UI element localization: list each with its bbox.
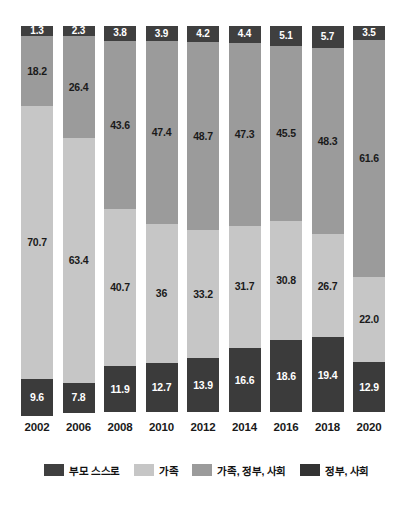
bar-segment-value-label: 48.3 — [318, 136, 338, 147]
x-axis-tick-label: 2012 — [187, 421, 219, 433]
bar-segment-value-label: 3.8 — [113, 28, 126, 38]
bar-segment-value-label: 18.2 — [27, 66, 47, 77]
x-axis-tick-label: 2008 — [104, 421, 136, 433]
bar-segment-value-label: 19.4 — [318, 370, 338, 381]
bar-group[interactable]: 4.248.733.213.9 — [187, 26, 219, 412]
bar-segment[interactable]: 30.8 — [270, 221, 302, 340]
x-axis-tick-label: 2002 — [21, 421, 53, 433]
bar-segment[interactable]: 61.6 — [353, 40, 385, 278]
bar-segment[interactable]: 12.9 — [353, 362, 385, 412]
bar-segment[interactable]: 36 — [146, 224, 178, 363]
bar-segment[interactable]: 19.4 — [312, 337, 344, 412]
bar-segment[interactable]: 7.8 — [63, 383, 95, 413]
legend-item-label: 가족 — [159, 463, 178, 478]
bar-segment[interactable]: 63.4 — [63, 138, 95, 383]
bar-segment[interactable]: 47.4 — [146, 41, 178, 224]
bar-segment-value-label: 36 — [156, 288, 167, 299]
bar-segment[interactable]: 2.3 — [63, 26, 95, 36]
bar-segment[interactable]: 5.1 — [270, 26, 302, 46]
bar-segment-value-label: 1.3 — [30, 26, 43, 36]
bar-segment[interactable]: 3.8 — [104, 26, 136, 41]
stacked-bar-chart: 1.318.270.79.62.326.463.47.83.843.640.71… — [0, 0, 413, 509]
x-axis-tick-label: 2010 — [146, 421, 178, 433]
x-axis: 200220062008201020122014201620182020 — [0, 412, 413, 444]
bar-segment-value-label: 40.7 — [110, 282, 130, 293]
bar-segment-value-label: 43.6 — [110, 120, 130, 131]
bar-group[interactable]: 5.748.326.719.4 — [312, 26, 344, 412]
bar-segment-value-label: 4.2 — [196, 29, 209, 39]
bar-segment[interactable]: 4.2 — [187, 26, 219, 42]
legend-color-swatch-icon — [192, 464, 212, 476]
x-axis-tick-label: 2016 — [270, 421, 302, 433]
bar-segment-value-label: 45.5 — [276, 128, 296, 139]
bar-segment[interactable]: 26.7 — [312, 234, 344, 337]
bar-segment-value-label: 16.6 — [235, 375, 255, 386]
bar-segment-value-label: 70.7 — [27, 237, 47, 248]
bar-segment[interactable]: 12.7 — [146, 363, 178, 412]
bar-segment-value-label: 48.7 — [193, 131, 213, 142]
bar-segment[interactable]: 11.9 — [104, 366, 136, 412]
bar-group[interactable]: 3.843.640.711.9 — [104, 26, 136, 412]
bar-segment[interactable]: 48.7 — [187, 42, 219, 230]
bar-segment[interactable]: 26.4 — [63, 36, 95, 138]
bar-segment[interactable]: 1.3 — [21, 26, 53, 36]
bar-group[interactable]: 3.561.622.012.9 — [353, 26, 385, 412]
bar-segment-value-label: 11.9 — [110, 384, 129, 395]
bar-segment[interactable]: 45.5 — [270, 46, 302, 222]
legend-item[interactable]: 가족 — [134, 463, 178, 478]
bar-group[interactable]: 2.326.463.47.8 — [63, 26, 95, 412]
x-axis-tick-label: 2014 — [229, 421, 261, 433]
legend-item[interactable]: 가족, 정부, 사회 — [192, 463, 286, 478]
bar-segment-value-label: 33.2 — [193, 289, 213, 300]
x-axis-tick-label: 2020 — [353, 421, 385, 433]
bar-segment-value-label: 26.7 — [318, 281, 338, 292]
x-axis-tick-label: 2006 — [63, 421, 95, 433]
bar-segment-value-label: 12.7 — [152, 382, 172, 393]
legend-color-swatch-icon — [44, 464, 64, 476]
bar-segment[interactable]: 5.7 — [312, 26, 344, 48]
legend-color-swatch-icon — [300, 464, 320, 476]
bar-segment-value-label: 30.8 — [276, 275, 296, 286]
bar-segment-value-label: 5.1 — [279, 31, 292, 41]
bar-segment[interactable]: 3.5 — [353, 26, 385, 40]
bar-segment-value-label: 12.9 — [359, 382, 379, 393]
bar-segment[interactable]: 31.7 — [229, 226, 261, 348]
bar-segment-value-label: 47.3 — [235, 129, 255, 140]
bar-segment[interactable]: 16.6 — [229, 348, 261, 412]
bar-segment-value-label: 3.9 — [155, 29, 168, 39]
bar-group[interactable]: 1.318.270.79.6 — [21, 26, 53, 412]
bar-segment[interactable]: 3.9 — [146, 26, 178, 41]
bar-segment-value-label: 7.8 — [72, 392, 86, 403]
chart-legend: 부모 스스로가족가족, 정부, 사회정부, 사회 — [0, 455, 413, 485]
plot-area: 1.318.270.79.62.326.463.47.83.843.640.71… — [0, 0, 413, 412]
x-axis-tick-label: 2018 — [312, 421, 344, 433]
bar-group[interactable]: 5.145.530.818.6 — [270, 26, 302, 412]
bar-segment-value-label: 4.4 — [238, 29, 251, 39]
legend-color-swatch-icon — [134, 464, 154, 476]
legend-item-label: 가족, 정부, 사회 — [217, 463, 286, 478]
bar-segment[interactable]: 18.6 — [270, 340, 302, 412]
bar-segment-value-label: 3.5 — [362, 28, 375, 38]
bar-segment[interactable]: 47.3 — [229, 43, 261, 226]
bar-segment[interactable]: 48.3 — [312, 48, 344, 234]
bar-segment[interactable]: 33.2 — [187, 230, 219, 358]
legend-item[interactable]: 부모 스스로 — [44, 463, 120, 478]
bar-group[interactable]: 4.447.331.716.6 — [229, 26, 261, 412]
bar-segment-value-label: 13.9 — [193, 380, 213, 391]
bar-segment-value-label: 31.7 — [235, 281, 255, 292]
bar-segment[interactable]: 22.0 — [353, 277, 385, 362]
bar-group[interactable]: 3.947.43612.7 — [146, 26, 178, 412]
bar-segment-value-label: 47.4 — [152, 127, 172, 138]
bar-segment-value-label: 22.0 — [359, 314, 379, 325]
legend-item-label: 정부, 사회 — [325, 463, 369, 478]
bar-segment[interactable]: 4.4 — [229, 26, 261, 43]
bar-segment[interactable]: 18.2 — [21, 36, 53, 106]
bar-segment[interactable]: 43.6 — [104, 41, 136, 209]
legend-item[interactable]: 정부, 사회 — [300, 463, 369, 478]
bar-segment-value-label: 26.4 — [69, 82, 89, 93]
bar-segment[interactable]: 9.6 — [21, 379, 53, 416]
bar-segment[interactable]: 40.7 — [104, 209, 136, 366]
bar-segment-value-label: 18.6 — [276, 371, 296, 382]
bar-segment[interactable]: 13.9 — [187, 358, 219, 412]
bar-segment[interactable]: 70.7 — [21, 106, 53, 379]
